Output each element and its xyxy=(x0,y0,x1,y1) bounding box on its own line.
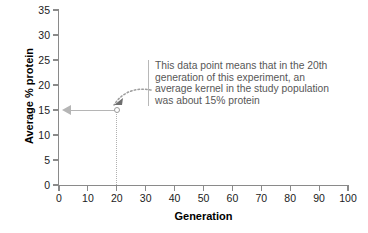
x-value-dropline xyxy=(116,110,117,185)
x-tick-mark xyxy=(174,186,175,191)
x-tick-mark xyxy=(203,186,204,191)
x-tick-label: 50 xyxy=(189,193,219,204)
x-tick-mark xyxy=(145,186,146,191)
callout-line-3: average kernel in the study population xyxy=(155,83,354,95)
x-axis-title: Generation xyxy=(59,210,348,222)
x-tick-mark xyxy=(290,186,291,191)
x-tick-mark xyxy=(58,186,59,191)
callout-line-2: generation of this experiment, an xyxy=(155,72,354,84)
x-tick-label: 90 xyxy=(304,193,334,204)
chart-figure: 05101520253035 0102030405060708090100 Th… xyxy=(0,0,368,233)
y-axis-title: Average % protein xyxy=(23,6,35,186)
y-value-arrowhead-icon xyxy=(62,105,71,115)
x-tick-label: 80 xyxy=(275,193,305,204)
x-tick-mark xyxy=(87,186,88,191)
x-tick-label: 60 xyxy=(217,193,247,204)
data-point-callout: This data point means that in the 20th g… xyxy=(148,60,354,106)
x-tick-mark xyxy=(347,186,348,191)
callout-arrow-icon xyxy=(106,84,154,116)
x-axis-ticks: 0102030405060708090100 xyxy=(0,0,368,233)
x-tick-mark xyxy=(319,186,320,191)
x-tick-label: 100 xyxy=(333,193,363,204)
callout-line-4: was about 15% protein xyxy=(155,95,354,107)
x-tick-label: 70 xyxy=(246,193,276,204)
x-tick-label: 20 xyxy=(102,193,132,204)
x-tick-label: 30 xyxy=(131,193,161,204)
x-tick-label: 40 xyxy=(160,193,190,204)
x-tick-label: 0 xyxy=(44,193,74,204)
x-tick-label: 10 xyxy=(73,193,103,204)
callout-line-1: This data point means that in the 20th xyxy=(155,60,354,72)
x-tick-mark xyxy=(116,186,117,191)
x-tick-mark xyxy=(261,186,262,191)
x-tick-mark xyxy=(232,186,233,191)
